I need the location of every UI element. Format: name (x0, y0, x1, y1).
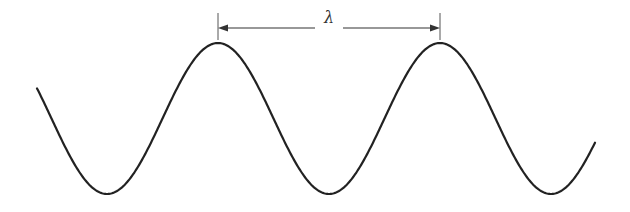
arrowhead-right-icon (430, 25, 440, 32)
arrowhead-left-icon (218, 25, 228, 32)
wave-diagram (0, 0, 630, 212)
wavelength-label: λ (320, 8, 338, 27)
sine-wave-curve (37, 43, 595, 194)
